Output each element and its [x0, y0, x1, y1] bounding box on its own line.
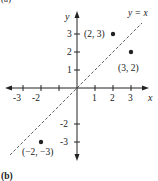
y-tick-label: 2 — [67, 47, 72, 57]
point-2-3 — [111, 32, 115, 36]
panel-label-b: (b) — [1, 171, 13, 181]
point-3-2 — [129, 50, 133, 54]
line-label: y = x — [127, 8, 148, 18]
x-tick-label: 3 — [128, 93, 133, 103]
x-tick-label: 2 — [110, 93, 115, 103]
y-axis-down-arrow-icon — [75, 154, 80, 161]
coordinate-plane: y x y = x (2, 3) (3, 2) (−2, −3) -3 -2 1… — [0, 0, 158, 181]
x-axis-right-arrow-icon — [142, 86, 149, 91]
point-neg2-neg3 — [39, 140, 43, 144]
y-tick-label: 1 — [67, 65, 72, 75]
point-label-neg2-neg3: (−2, −3) — [22, 147, 53, 158]
x-axis-left-arrow-icon — [5, 86, 12, 91]
point-label-2-3: (2, 3) — [84, 29, 105, 40]
x-tick-label: -3 — [13, 93, 21, 103]
y-tick-label: 3 — [67, 29, 72, 39]
identity-line — [10, 23, 142, 155]
x-tick-label: 1 — [92, 93, 97, 103]
y-tick-label: -3 — [60, 137, 68, 147]
point-label-3-2: (3, 2) — [118, 63, 139, 74]
x-axis-label: x — [147, 92, 153, 103]
y-axis-up-arrow-icon — [75, 11, 80, 18]
x-tick-label: -2 — [32, 93, 40, 103]
y-axis-label: y — [64, 11, 70, 22]
y-tick-label: -2 — [60, 119, 68, 129]
